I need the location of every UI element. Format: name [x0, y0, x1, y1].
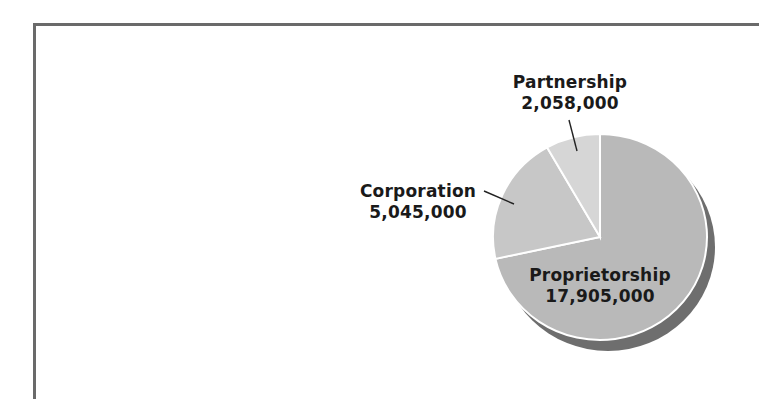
proprietorship-label: Proprietorship 17,905,000	[525, 265, 675, 307]
partnership-value: 2,058,000	[508, 93, 632, 114]
proprietorship-name: Proprietorship	[525, 265, 675, 286]
pie-slices	[493, 134, 707, 340]
corporation-value: 5,045,000	[356, 202, 480, 223]
corporation-label: Corporation 5,045,000	[356, 181, 480, 223]
partnership-name: Partnership	[508, 72, 632, 93]
corporation-name: Corporation	[356, 181, 480, 202]
proprietorship-value: 17,905,000	[525, 286, 675, 307]
partnership-label: Partnership 2,058,000	[508, 72, 632, 114]
